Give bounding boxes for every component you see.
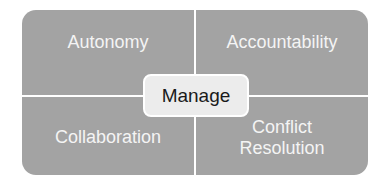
quadrant-label: Conflict Resolution [227, 117, 337, 159]
quadrant-label: Autonomy [67, 32, 148, 53]
center-label: Manage [162, 85, 231, 107]
center-node-manage: Manage [143, 74, 249, 117]
quadrant-label: Accountability [226, 32, 337, 53]
quadrant-label: Collaboration [55, 127, 161, 148]
